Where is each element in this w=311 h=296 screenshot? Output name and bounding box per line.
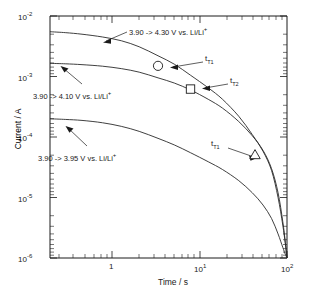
marker-square-tT2 — [186, 85, 194, 93]
marker-label-tT1-triangle: tT1 — [211, 140, 220, 150]
axis-frame — [50, 16, 287, 258]
x-tick-label-10: 101 — [194, 263, 206, 274]
plot-canvas — [0, 0, 311, 296]
y-tick-label-1e-3: 10-3 — [18, 72, 32, 83]
marker-triangle-tT1 — [250, 150, 260, 159]
x-axis-minor-ticks — [59, 16, 282, 258]
marker-label-tT2-square: tT2 — [230, 77, 239, 87]
annotation-410v: 3.90 -> 4.10 V vs. Li/Li+ — [33, 90, 111, 100]
annotation-430v: 3.90 -> 4.30 V vs. Li/Li+ — [129, 26, 207, 36]
y-tick-label-1e-2: 10-2 — [18, 11, 32, 22]
x-axis-title: Time / s — [158, 278, 188, 287]
marker-label-tT1-circle: tT1 — [205, 55, 214, 65]
y-axis-title: Current / A — [13, 109, 23, 150]
curve-395v — [50, 119, 287, 258]
y-axis-major-ticks — [50, 16, 287, 258]
chart-figure: 10-2 10-3 10-4 10-5 10-6 1 101 102 Time … — [0, 0, 311, 296]
x-axis-major-ticks — [112, 16, 287, 258]
y-tick-label-1e-5: 10-5 — [18, 193, 32, 204]
annotation-395v: 3.90 -> 3.95 V vs. Li/Li+ — [38, 152, 116, 162]
marker-circle-tT1 — [153, 61, 162, 70]
data-markers — [153, 61, 260, 158]
y-axis-title-wrapper: Current / A — [7, 94, 25, 164]
x-tick-label-100: 102 — [281, 263, 293, 274]
x-tick-label-1: 1 — [109, 263, 113, 271]
y-tick-label-1e-6: 10-6 — [18, 253, 32, 264]
